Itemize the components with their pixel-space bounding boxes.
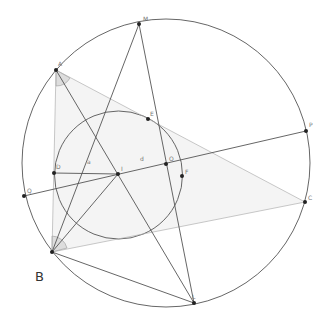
point-o[interactable]: [164, 162, 168, 166]
point-l[interactable]: [192, 301, 196, 305]
geometry-diagram: ACMPLQIDOEFad: [0, 0, 323, 324]
point-label-d: D: [56, 163, 61, 170]
point-b[interactable]: [50, 250, 54, 254]
segment-label-d: d: [140, 155, 144, 162]
point-f[interactable]: [180, 174, 184, 178]
point-a[interactable]: [54, 68, 58, 72]
point-label-c: C: [308, 194, 312, 201]
point-d[interactable]: [52, 171, 56, 175]
caption-label: B: [35, 269, 44, 284]
point-label-e: E: [150, 110, 154, 117]
point-label-i: I: [121, 165, 123, 172]
point-q[interactable]: [22, 194, 26, 198]
point-e[interactable]: [146, 117, 150, 121]
point-i[interactable]: [116, 172, 120, 176]
segment-label-a: a: [87, 158, 91, 165]
point-c[interactable]: [303, 200, 307, 204]
segment-bl: [52, 252, 194, 303]
point-label-q: Q: [27, 187, 32, 194]
point-m[interactable]: [137, 22, 141, 26]
point-label-l: L: [192, 293, 196, 300]
point-label-m: M: [143, 15, 148, 22]
point-label-f: F: [185, 168, 189, 175]
point-label-p: P: [309, 121, 313, 128]
point-label-o: O: [169, 155, 174, 162]
point-p[interactable]: [304, 129, 308, 133]
